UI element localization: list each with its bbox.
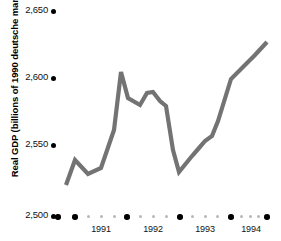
gdp-data-line [66, 42, 267, 185]
gdp-line-chart: Real GDP (billions of 1990 deutsche mark… [0, 0, 281, 241]
plot-area [0, 0, 281, 241]
